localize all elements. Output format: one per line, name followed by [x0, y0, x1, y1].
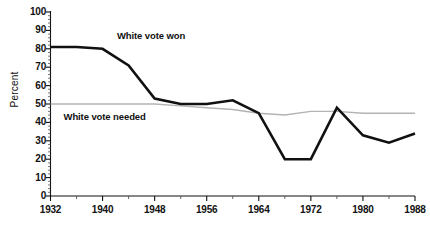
chart-series [51, 47, 416, 159]
series-line-white-vote-won [51, 47, 416, 159]
x-axis-tick-label: 1980 [343, 205, 383, 215]
x-axis-tick-label: 1940 [83, 205, 123, 215]
chart-container: Percent 0102030405060708090100 193219401… [0, 0, 430, 229]
x-axis-tick-label: 1988 [395, 205, 430, 215]
y-axis-tick-label: 50 [20, 99, 46, 109]
y-axis-tick-label: 10 [20, 173, 46, 183]
y-axis-tick-label: 30 [20, 136, 46, 146]
y-axis-tick-label: 0 [20, 191, 46, 201]
chart-axes [46, 11, 415, 201]
series-annotation: White vote won [117, 30, 185, 41]
y-axis-tick-label: 20 [20, 154, 46, 164]
y-axis-tick-label: 40 [20, 117, 46, 127]
x-axis-tick-label: 1972 [291, 205, 331, 215]
y-axis-tick-label: 60 [20, 81, 46, 91]
y-axis-tick-label: 100 [20, 7, 46, 17]
y-axis-tick-label: 90 [20, 25, 46, 35]
x-axis-tick-label: 1964 [239, 205, 279, 215]
y-axis-tick-label: 80 [20, 44, 46, 54]
x-axis-tick-label: 1948 [135, 205, 175, 215]
y-axis-tick-label: 70 [20, 62, 46, 72]
x-axis-tick-label: 1932 [31, 205, 71, 215]
series-annotation: White vote needed [64, 111, 146, 122]
y-axis-title: Percent [9, 50, 20, 130]
x-axis-tick-label: 1956 [187, 205, 227, 215]
